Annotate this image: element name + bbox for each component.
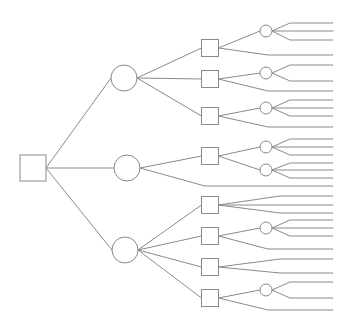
edge-c1-to-s2 xyxy=(137,78,202,79)
decision-tree-diagram xyxy=(0,0,352,327)
chance-node-small xyxy=(260,67,272,79)
decision-node xyxy=(202,259,219,276)
leaf-line xyxy=(219,298,334,310)
root-decision-node xyxy=(20,155,46,181)
leaf-line xyxy=(219,236,334,249)
decision-node xyxy=(202,108,219,125)
edge-s4-to-ce xyxy=(219,156,261,170)
leaf-line xyxy=(272,23,333,31)
chance-node-small xyxy=(260,25,272,37)
leaf-line xyxy=(272,31,333,40)
leaf-line xyxy=(272,100,333,108)
leaf-line xyxy=(272,170,333,178)
chance-node-small xyxy=(260,222,272,234)
leaf-line xyxy=(219,259,334,267)
decision-node xyxy=(202,228,219,245)
decision-node xyxy=(202,71,219,88)
edge-c3-to-s7 xyxy=(138,250,202,267)
edge-root-to-c3 xyxy=(46,168,112,250)
edge-s2-to-cb xyxy=(219,73,261,79)
chance-node-small xyxy=(260,284,272,296)
leaf-line xyxy=(272,228,333,236)
leaf-line xyxy=(272,163,333,170)
leaf-line xyxy=(140,168,333,186)
leaf-line xyxy=(272,147,333,155)
leaf-line xyxy=(272,282,333,290)
edge-s8-to-cg xyxy=(219,290,261,298)
decision-node xyxy=(202,197,219,214)
chance-node-small xyxy=(260,141,272,153)
edge-c2-to-s4 xyxy=(140,156,202,168)
decision-node xyxy=(202,40,219,57)
edge-s1-to-ca xyxy=(219,31,261,48)
decision-tree-svg xyxy=(0,0,352,327)
chance-node-large xyxy=(112,237,138,263)
edge-c1-to-s3 xyxy=(137,78,202,116)
decision-node xyxy=(202,290,219,307)
leaf-line xyxy=(219,48,334,55)
chance-node-large xyxy=(111,65,137,91)
edge-c1-to-s1 xyxy=(137,48,202,78)
decision-node xyxy=(202,148,219,165)
leaf-line xyxy=(272,139,333,147)
edge-s4-to-cd xyxy=(219,147,261,156)
leaf-line xyxy=(219,116,334,127)
leaf-line xyxy=(272,73,333,81)
leaf-line xyxy=(219,196,334,205)
leaf-line xyxy=(219,205,334,213)
edge-c3-to-s8 xyxy=(138,250,202,298)
leaf-line xyxy=(272,220,333,228)
tree-nodes xyxy=(20,25,272,307)
edge-s3-to-cc xyxy=(219,108,261,116)
edge-root-to-c1 xyxy=(46,78,111,168)
chance-node-small xyxy=(260,102,272,114)
leaf-line xyxy=(272,65,333,73)
leaf-line xyxy=(219,267,334,273)
chance-node-large xyxy=(114,155,140,181)
chance-node-small xyxy=(260,164,272,176)
edge-s6-to-cf xyxy=(219,228,261,236)
tree-edges xyxy=(46,23,333,310)
leaf-line xyxy=(272,108,333,116)
leaf-line xyxy=(272,290,333,298)
